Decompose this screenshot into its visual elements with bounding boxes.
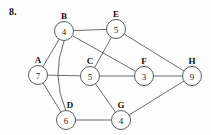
graph-edge-a-d [43, 83, 61, 112]
graph-node-label-a: A [35, 55, 42, 65]
graph-node-h[interactable]: H9 [183, 56, 202, 86]
graph-canvas: A7B4C5D6E5F3G4H9 [0, 0, 211, 135]
graph-edge-b-e [73, 29, 106, 30]
graph-node-a[interactable]: A7 [29, 55, 48, 85]
graph-node-label-b: B [61, 11, 67, 21]
graph-node-f[interactable]: F3 [135, 56, 154, 86]
graph-edge-a-c [47, 75, 80, 76]
graph-edge-b-f [72, 36, 135, 72]
graph-node-g[interactable]: G4 [112, 100, 131, 130]
graph-node-value-d: 6 [64, 116, 69, 126]
graph-node-value-b: 4 [62, 27, 67, 37]
graph-node-label-h: H [188, 56, 195, 66]
graph-edge-e-h [124, 34, 184, 71]
graph-node-value-a: 7 [36, 71, 41, 81]
graph-node-e[interactable]: E5 [107, 9, 126, 39]
graph-node-value-c: 5 [88, 72, 93, 82]
graph-node-label-c: C [87, 56, 94, 66]
graph-edge-e-c [95, 37, 112, 67]
graph-node-value-e: 5 [114, 25, 119, 35]
graph-edge-c-g [95, 84, 115, 112]
graph-node-c[interactable]: C5 [81, 56, 100, 86]
graph-edge-a-b [43, 39, 59, 67]
graph-node-value-h: 9 [190, 72, 195, 82]
graph-node-value-f: 3 [142, 72, 147, 82]
graph-node-label-g: G [117, 100, 124, 110]
graph-node-label-f: F [141, 56, 147, 66]
graph-node-d[interactable]: D6 [57, 100, 76, 130]
graph-node-b[interactable]: B4 [55, 11, 74, 41]
graph-node-label-e: E [113, 9, 119, 19]
edge-layer [43, 29, 184, 120]
graph-node-value-g: 4 [119, 116, 124, 126]
graph-edge-g-h [129, 81, 184, 115]
graph-figure: 8. A7B4C5D6E5F3G4H9 [0, 0, 211, 135]
graph-node-label-d: D [67, 100, 74, 110]
